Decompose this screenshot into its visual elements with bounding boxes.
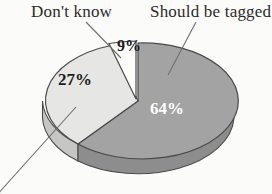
slice-value-should-be-tagged: 64% — [150, 99, 184, 119]
pie-chart-svg — [0, 0, 272, 194]
callout-label-should-be-tagged: Should be tagged — [150, 2, 271, 22]
pie-chart-figure: Don't know Should be tagged 9% 27% 64% — [0, 0, 272, 194]
slice-value-27: 27% — [58, 70, 92, 90]
slice-value-dont-know: 9% — [117, 37, 141, 55]
callout-label-dont-know: Don't know — [31, 2, 112, 22]
pie-top-faces — [45, 41, 238, 159]
